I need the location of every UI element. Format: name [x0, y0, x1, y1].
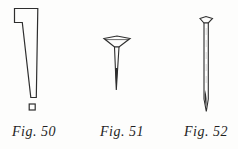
figure-caption-50: Fig. 50 — [12, 123, 56, 141]
scanned-page: Fig. 50 Fig. 51 Fig. 52 — [0, 0, 238, 149]
figure-caption-51: Fig. 51 — [100, 123, 144, 141]
cut-nail-illustration — [15, 9, 38, 111]
wire-nail-illustration — [200, 17, 213, 112]
figure-caption-52: Fig. 52 — [184, 123, 228, 141]
tack-illustration — [104, 36, 130, 90]
